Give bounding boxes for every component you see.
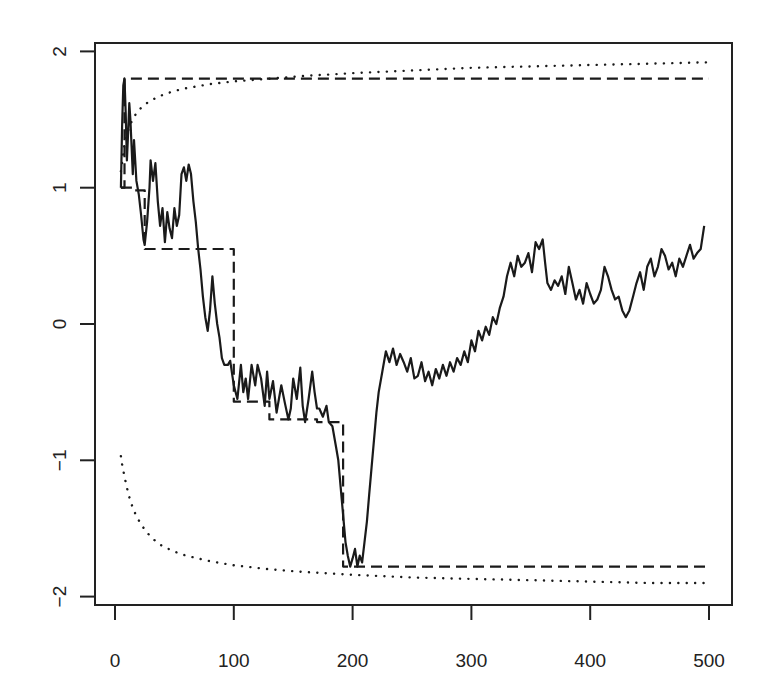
- x-tick-label: 100: [218, 650, 250, 671]
- plot-frame: [95, 43, 732, 605]
- line-chart: 0100200300400500 −2−1012: [0, 0, 768, 697]
- y-axis: −2−1012: [49, 46, 96, 607]
- series-lower-bound: [121, 456, 709, 583]
- y-tick-label: 2: [49, 46, 70, 57]
- y-tick-label: 1: [49, 182, 70, 193]
- y-tick-label: −1: [49, 449, 70, 471]
- series-path: [121, 79, 704, 567]
- x-tick-label: 400: [574, 650, 606, 671]
- x-tick-label: 0: [110, 650, 121, 671]
- series-running-max: [121, 79, 709, 188]
- y-tick-label: 0: [49, 319, 70, 330]
- series-layer: [121, 62, 709, 583]
- x-tick-label: 200: [337, 650, 369, 671]
- x-axis: 0100200300400500: [110, 605, 725, 671]
- x-tick-label: 500: [693, 650, 725, 671]
- x-tick-label: 300: [456, 650, 488, 671]
- y-tick-label: −2: [49, 586, 70, 608]
